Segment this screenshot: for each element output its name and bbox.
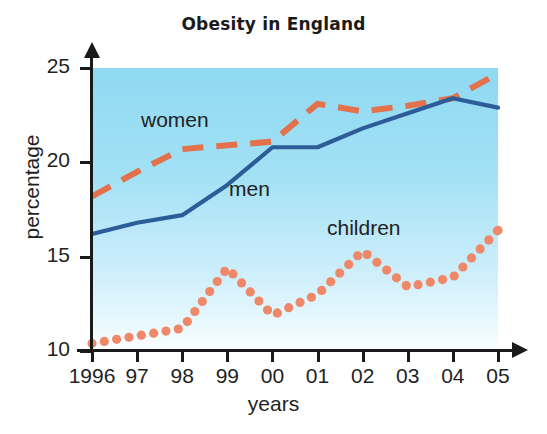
- data-point: [190, 307, 199, 316]
- data-point: [335, 268, 344, 277]
- y-tick-label: 10: [26, 337, 70, 361]
- data-point: [174, 324, 183, 333]
- data-point: [295, 298, 304, 307]
- data-point: [467, 253, 476, 262]
- data-point: [124, 333, 133, 342]
- data-point: [228, 269, 237, 278]
- data-point: [493, 226, 502, 235]
- x-tick-mark: [407, 351, 410, 362]
- x-axis-line: [77, 349, 514, 352]
- data-point: [246, 287, 255, 296]
- data-point: [237, 278, 246, 287]
- x-axis-title: years: [0, 392, 547, 416]
- y-tick-label: 25: [26, 54, 70, 78]
- data-point: [326, 277, 335, 286]
- y-axis-title: percentage: [20, 107, 44, 267]
- data-point: [213, 277, 222, 286]
- x-tick-mark: [226, 351, 229, 362]
- figure-obesity-in-england: Obesity in England 10152025 199697989900…: [0, 0, 547, 434]
- series-label-men: men: [229, 177, 270, 201]
- data-point: [183, 317, 192, 326]
- data-point: [112, 335, 121, 344]
- x-tick-mark: [497, 351, 500, 362]
- data-point: [161, 326, 170, 335]
- data-point: [476, 244, 485, 253]
- chart-title: Obesity in England: [0, 14, 547, 34]
- data-point: [284, 303, 293, 312]
- data-point: [344, 260, 353, 269]
- data-point: [149, 329, 158, 338]
- data-point: [263, 305, 272, 314]
- data-point: [198, 297, 207, 306]
- y-tick-mark: [80, 350, 91, 353]
- x-tick-mark: [271, 351, 274, 362]
- x-axis-arrow-icon: [512, 342, 528, 358]
- x-tick-mark: [317, 351, 320, 362]
- data-point: [450, 271, 459, 280]
- data-point: [220, 267, 229, 276]
- y-axis-arrow-icon: [84, 42, 100, 58]
- y-tick-mark: [80, 161, 91, 164]
- data-point: [362, 250, 371, 259]
- data-point: [458, 262, 467, 271]
- x-tick-mark: [136, 351, 139, 362]
- data-point: [254, 296, 263, 305]
- series-label-women: women: [141, 108, 209, 132]
- series-women: [92, 74, 498, 197]
- x-tick-mark: [452, 351, 455, 362]
- data-point: [205, 287, 214, 296]
- data-point: [317, 286, 326, 295]
- x-tick-label: 05: [458, 364, 538, 388]
- data-point: [372, 258, 381, 267]
- data-point: [426, 278, 435, 287]
- series-label-children: children: [327, 216, 401, 240]
- y-axis-line: [90, 56, 93, 353]
- data-point: [484, 235, 493, 244]
- data-point: [353, 251, 362, 260]
- data-point: [438, 275, 447, 284]
- data-point: [413, 280, 422, 289]
- data-point: [382, 265, 391, 274]
- data-point: [100, 337, 109, 346]
- series-children: [87, 226, 502, 348]
- x-tick-mark: [91, 351, 94, 362]
- x-tick-mark: [362, 351, 365, 362]
- data-point: [273, 308, 282, 317]
- y-tick-mark: [80, 67, 91, 70]
- data-point: [392, 273, 401, 282]
- data-point: [137, 331, 146, 340]
- x-tick-mark: [181, 351, 184, 362]
- data-point: [402, 281, 411, 290]
- data-point: [307, 293, 316, 302]
- y-tick-mark: [80, 256, 91, 259]
